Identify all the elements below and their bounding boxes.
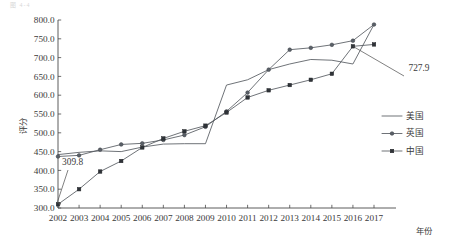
data-point-中国 xyxy=(204,124,208,128)
data-point-英国 xyxy=(56,155,60,159)
annotation-leader-309 xyxy=(58,170,69,202)
y-axis-tick-label: 550.0 xyxy=(34,109,55,119)
data-point-中国 xyxy=(372,43,376,47)
data-point-中国 xyxy=(267,89,271,93)
y-axis-tick-label: 500.0 xyxy=(34,128,55,138)
x-axis-tick-label: 2010 xyxy=(217,213,236,223)
y-axis-tick-label: 600.0 xyxy=(34,90,55,100)
x-axis-tick-label: 2002 xyxy=(49,213,68,223)
data-point-英国 xyxy=(246,91,250,95)
legend-marker-英国 xyxy=(390,132,394,136)
x-axis-tick-label: 2012 xyxy=(259,213,278,223)
y-axis-tick-label: 450.0 xyxy=(34,147,55,157)
series-line-美国 xyxy=(58,25,374,155)
y-axis-tick-label: 800.0 xyxy=(34,15,55,25)
legend-label-美国: 美国 xyxy=(406,110,424,121)
legend-marker-中国 xyxy=(390,149,394,153)
data-point-英国 xyxy=(267,68,271,72)
data-point-英国 xyxy=(98,148,102,152)
annotation-label-727: 727.9 xyxy=(408,63,429,73)
data-point-中国 xyxy=(288,83,292,87)
line-chart-canvas: 300.0350.0400.0450.0500.0550.0600.0650.0… xyxy=(0,0,461,244)
data-point-英国 xyxy=(351,39,355,43)
x-axis-title: 年份 xyxy=(416,226,433,236)
x-axis-tick-label: 2013 xyxy=(281,213,300,223)
y-axis-tick-label: 700.0 xyxy=(34,53,55,63)
x-axis-tick-label: 2006 xyxy=(133,213,152,223)
data-point-中国 xyxy=(309,78,313,82)
data-point-中国 xyxy=(225,111,229,115)
data-point-中国 xyxy=(119,159,123,163)
data-point-英国 xyxy=(288,48,292,52)
data-point-中国 xyxy=(351,45,355,49)
data-point-中国 xyxy=(183,130,187,134)
x-axis-tick-label: 2008 xyxy=(175,213,194,223)
figure-caption-top: 图 4-4 xyxy=(10,0,31,9)
data-point-英国 xyxy=(119,143,123,147)
y-axis-tick-label: 650.0 xyxy=(34,72,55,82)
x-axis-tick-label: 2011 xyxy=(239,213,257,223)
chart-figure: 图 4-4 300.0350.0400.0450.0500.0550.0600.… xyxy=(0,0,461,244)
y-axis-tick-label: 750.0 xyxy=(34,34,55,44)
x-axis-tick-label: 2014 xyxy=(302,213,321,223)
x-axis-tick-label: 2016 xyxy=(344,213,363,223)
x-axis-tick-label: 2017 xyxy=(365,213,384,223)
series-line-英国 xyxy=(58,25,374,157)
legend-label-英国: 英国 xyxy=(406,127,424,138)
data-point-英国 xyxy=(309,46,313,50)
x-axis-tick-label: 2005 xyxy=(112,213,131,223)
y-axis-title: 评分 xyxy=(18,117,28,134)
series-line-中国 xyxy=(58,44,374,204)
data-point-中国 xyxy=(162,137,166,141)
x-axis-tick-label: 2007 xyxy=(154,213,173,223)
data-point-英国 xyxy=(140,141,144,145)
data-point-中国 xyxy=(98,170,102,174)
data-point-英国 xyxy=(183,133,187,137)
data-point-中国 xyxy=(77,187,81,191)
annotation-label-309: 309.8 xyxy=(62,157,83,167)
data-point-中国 xyxy=(330,72,334,76)
data-point-中国 xyxy=(246,96,250,100)
annotation-leader-727 xyxy=(353,46,404,76)
legend-label-中国: 中国 xyxy=(406,145,424,156)
x-axis-tick-label: 2009 xyxy=(196,213,215,223)
x-axis-tick-label: 2004 xyxy=(91,213,110,223)
data-point-英国 xyxy=(330,43,334,47)
y-axis-tick-label: 400.0 xyxy=(34,166,55,176)
y-axis-tick-label: 350.0 xyxy=(34,184,55,194)
x-axis-tick-label: 2015 xyxy=(323,213,342,223)
data-point-中国 xyxy=(141,146,145,150)
data-point-英国 xyxy=(372,23,376,27)
x-axis-tick-label: 2003 xyxy=(70,213,89,223)
